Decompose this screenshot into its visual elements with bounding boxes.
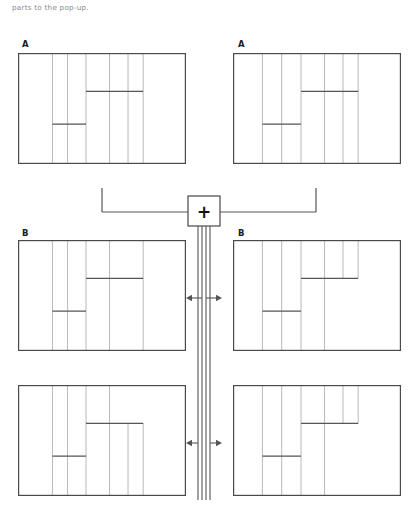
- panel-child-b-bottom-left[interactable]: [18, 385, 186, 496]
- arrow-head-left-0: [186, 295, 192, 301]
- panel-child-b-mid-left[interactable]: [18, 240, 186, 351]
- panel-frame: [234, 241, 401, 351]
- panel-child-b-mid-right[interactable]: [233, 240, 401, 351]
- panel-frame: [234, 386, 401, 496]
- panel-child-b-bottom-right[interactable]: [233, 385, 401, 496]
- panel-frame: [19, 241, 186, 351]
- plus-icon: +: [197, 202, 211, 222]
- panel-frame: [234, 54, 401, 164]
- diagram-canvas: parts to the pop-up. A A B B +: [0, 0, 418, 515]
- panel-parent-a-right[interactable]: [233, 53, 401, 164]
- arrow-head-right-0: [216, 295, 222, 301]
- arrow-head-left-1: [186, 440, 192, 446]
- panel-frame: [19, 54, 186, 164]
- panel-parent-a-left[interactable]: [18, 53, 186, 164]
- panel-frame: [19, 386, 186, 496]
- arrow-head-right-1: [216, 440, 222, 446]
